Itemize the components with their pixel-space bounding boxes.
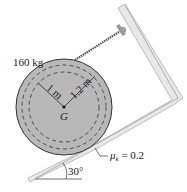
mass-label: 160 kg	[13, 56, 44, 68]
cable	[75, 24, 126, 60]
center-point	[62, 105, 65, 108]
spool	[16, 59, 112, 155]
friction-leader	[95, 148, 108, 156]
friction-label: μk = 0.2	[109, 149, 144, 163]
spool-diagram: 160 kg 1 m 1.2 m G μk = 0.2 30°	[0, 0, 187, 192]
center-label: G	[60, 110, 68, 122]
angle-label: 30°	[68, 165, 83, 177]
